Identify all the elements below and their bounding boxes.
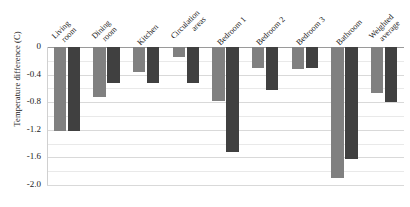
x-axis-category-labels: LivingroomDiningroomKitchenCirculationar… [47,0,404,47]
y-tick-label: 0 [1,42,41,51]
bar[interactable] [345,47,358,159]
bar-group [47,47,87,185]
bar[interactable] [385,47,398,102]
y-tick-label: -2.0 [1,180,41,189]
category-label-line: Kitchen [136,22,161,47]
bar-group [87,47,127,185]
bar-group [325,47,365,185]
category-label-line: Bedroom 3 [294,15,326,47]
bar[interactable] [252,47,265,68]
bar[interactable] [292,47,305,69]
bar[interactable] [266,47,279,90]
category-label: Bedroom 2 [255,15,287,47]
category-label: Livingroom [50,19,78,47]
bar[interactable] [371,47,384,93]
category-label: Bathroom [334,17,364,47]
y-tick-label: -1.6 [1,152,41,161]
y-tick-label: -1.2 [1,125,41,134]
bar[interactable] [54,47,67,131]
bar[interactable] [226,47,239,152]
bar[interactable] [187,47,200,83]
category-label-line: Bedroom 1 [215,15,247,47]
bar[interactable] [107,47,120,83]
y-tick-label: -0.4 [1,70,41,79]
bar[interactable] [173,47,186,57]
bar[interactable] [93,47,106,97]
bar-group [126,47,166,185]
y-tick-label: -0.8 [1,97,41,106]
gridline [47,185,404,186]
bar[interactable] [133,47,146,72]
bar[interactable] [212,47,225,101]
plot-area [47,47,404,185]
bar[interactable] [147,47,160,83]
bar-group [206,47,246,185]
bar[interactable] [306,47,319,68]
category-label: Bedroom 3 [294,15,326,47]
category-label-line: Bathroom [334,17,364,47]
bar-group [245,47,285,185]
bar-group [166,47,206,185]
category-label: Weightedaverage [367,12,402,47]
bar-chart: Temperature difference (C) 0-0.4-0.8-1.2… [0,0,410,207]
bar[interactable] [331,47,344,178]
bar[interactable] [68,47,81,131]
category-label-line: Bedroom 2 [255,15,287,47]
bar-group [364,47,404,185]
category-label: Diningroom [89,18,118,47]
y-axis-tick-labels: 0-0.4-0.8-1.2-1.6-2.0 [0,0,44,207]
category-label: Bedroom 1 [215,15,247,47]
category-label: Circulationareas [169,8,208,47]
bar-group [285,47,325,185]
category-label: Kitchen [136,22,161,47]
bars-layer [47,47,404,185]
